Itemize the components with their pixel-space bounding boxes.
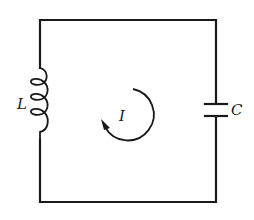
current-indicator: I bbox=[101, 89, 154, 140]
inductor: L bbox=[16, 68, 48, 140]
current-label: I bbox=[118, 107, 126, 125]
capacitor-label: C bbox=[231, 101, 243, 119]
arrowhead-icon bbox=[101, 119, 110, 130]
wire-left-top bbox=[40, 20, 216, 104]
wire-right-bottom bbox=[40, 116, 216, 202]
circuit-wires bbox=[40, 20, 216, 202]
inductor-coil-icon bbox=[31, 68, 48, 140]
capacitor: C bbox=[205, 101, 243, 119]
inductor-label: L bbox=[16, 95, 27, 113]
lc-circuit-diagram: L C I bbox=[0, 0, 254, 220]
clockwise-arrow-icon bbox=[105, 89, 154, 140]
